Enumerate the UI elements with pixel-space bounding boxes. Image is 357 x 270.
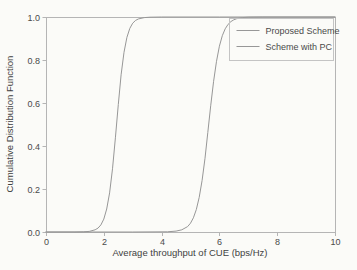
cdf-figure: 02468100.00.20.40.60.81.0 Proposed Schem… [0, 0, 357, 270]
x-tick-label: 4 [160, 237, 165, 247]
x-tick-label: 0 [44, 237, 49, 247]
x-tick-label: 2 [102, 237, 107, 247]
legend: Proposed SchemeScheme with PC [230, 19, 340, 61]
y-tick-label: 1.0 [27, 13, 40, 23]
y-tick-label: 0.4 [27, 142, 40, 152]
x-axis-title: Average throughput of CUE (bps/Hz) [112, 247, 267, 258]
x-tick-label: 8 [275, 237, 280, 247]
y-tick-label: 0.0 [27, 228, 40, 238]
y-tick-label: 0.6 [27, 99, 40, 109]
y-axis-title: Cumulative Distribution Function [4, 56, 15, 193]
x-tick-label: 6 [217, 237, 222, 247]
legend-label: Scheme with PC [266, 42, 333, 52]
legend-label: Proposed Scheme [266, 26, 340, 36]
y-tick-label: 0.8 [27, 56, 40, 66]
cdf-chart: 02468100.00.20.40.60.81.0 Proposed Schem… [0, 0, 357, 270]
y-tick-label: 0.2 [27, 185, 40, 195]
x-tick-label: 10 [330, 237, 340, 247]
